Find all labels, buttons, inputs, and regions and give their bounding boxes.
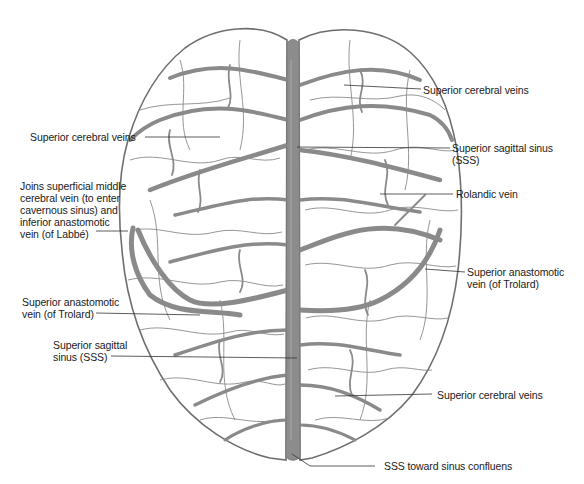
label-rolandic-vein: Rolandic vein (456, 188, 518, 200)
label-superior-anastomotic-vein-trolard-left: Superior anastomotic vein (of Trolard) (22, 296, 119, 320)
brain-illustration (0, 0, 584, 484)
label-superior-anastomotic-vein-trolard-right: Superior anastomotic vein (of Trolard) (467, 266, 564, 290)
label-superior-cerebral-veins-top-right: Superior cerebral veins (423, 84, 529, 96)
label-sss-toward-sinus-confluens: SSS toward sinus confluens (384, 460, 512, 472)
superior-sagittal-sinus (286, 40, 300, 461)
label-superior-sagittal-sinus-left: Superior sagittal sinus (SSS) (53, 339, 127, 363)
label-joins-superficial-middle-cerebral-vein: Joins superficial middle cerebral vein (… (20, 180, 126, 240)
label-superior-cerebral-veins-bottom-right: Superior cerebral veins (437, 389, 543, 401)
label-superior-sagittal-sinus-right: Superior sagittal sinus (SSS) (452, 142, 553, 166)
label-superior-cerebral-veins-left: Superior cerebral veins (30, 131, 136, 143)
cerebral-veins-diagram: Superior cerebral veins Superior cerebra… (0, 0, 584, 484)
